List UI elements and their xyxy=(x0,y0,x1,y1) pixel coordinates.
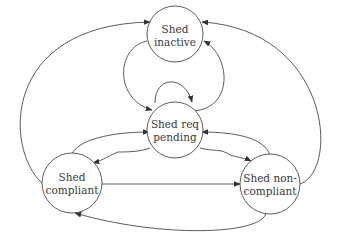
node-label: inactive xyxy=(154,36,196,48)
node-label: pending xyxy=(153,131,197,143)
node-label: Shed req xyxy=(151,118,199,130)
edge-pending-to-noncompliant xyxy=(200,148,251,161)
edge-inactive-to-pending xyxy=(124,41,152,110)
node-shed-compliant: Shed compliant xyxy=(42,153,102,213)
node-label: Shed xyxy=(162,23,189,35)
node-label: Shed xyxy=(59,171,86,183)
edge-pending-to-compliant xyxy=(93,148,150,163)
node-shed-req-pending: Shed req pending xyxy=(147,102,203,158)
edge-pending-self-loop xyxy=(155,82,192,103)
node-label: compliant xyxy=(46,184,100,196)
edge-noncompliant-to-pending xyxy=(202,132,270,156)
node-label: Shed non- xyxy=(243,172,297,184)
node-label: compliant xyxy=(244,185,298,197)
state-diagram: Shed inactive Shed req pending Shed comp… xyxy=(0,0,342,246)
node-shed-inactive: Shed inactive xyxy=(147,6,203,62)
edge-noncompliant-to-compliant xyxy=(75,213,266,231)
node-shed-noncompliant: Shed non- compliant xyxy=(240,154,300,214)
edge-pending-to-inactive xyxy=(193,41,224,111)
